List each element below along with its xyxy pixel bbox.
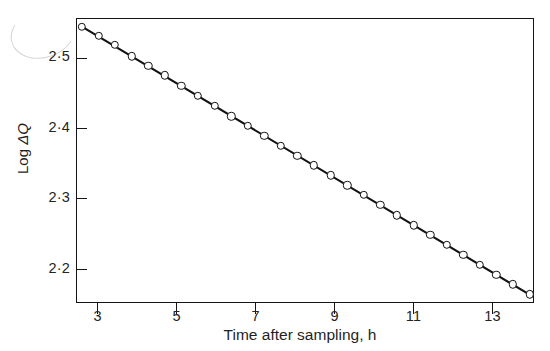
y-tick-label: 2·3 <box>24 189 70 205</box>
x-tick-label: 9 <box>320 308 350 324</box>
x-tick-label: 5 <box>162 308 192 324</box>
y-tick-label: 2·5 <box>24 48 70 64</box>
x-tick-label: 3 <box>83 308 113 324</box>
x-tick-label: 11 <box>399 308 429 324</box>
y-tick-mark <box>76 128 87 129</box>
x-axis-title: Time after sampling, h <box>150 326 450 344</box>
y-axis-title-prefix: Log <box>14 145 31 174</box>
y-tick-mark <box>76 198 87 199</box>
y-tick-label: 2·4 <box>24 119 70 135</box>
plot-frame <box>76 18 534 303</box>
y-tick-mark <box>76 58 87 59</box>
x-tick-label: 13 <box>478 308 508 324</box>
x-tick-label: 7 <box>241 308 271 324</box>
y-axis-title: Log ΔQ <box>14 101 31 197</box>
y-tick-label: 2·2 <box>24 260 70 276</box>
y-tick-mark <box>76 269 87 270</box>
figure-panel: 2·52·42·32·2 35791113 Log ΔQ Time after … <box>0 0 550 351</box>
y-axis-title-symbol: ΔQ <box>14 123 31 145</box>
